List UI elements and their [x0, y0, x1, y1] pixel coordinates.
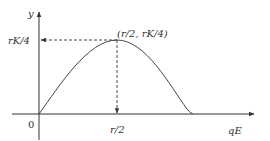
y-axis-label: y	[27, 8, 34, 19]
chart-canvas: y rK/4 (r/2, rK/4) 0 r/2 qE	[0, 0, 270, 141]
origin-label: 0	[28, 119, 34, 130]
x-axis-label: qE	[228, 125, 242, 136]
y-tick-label: rK/4	[8, 35, 30, 46]
x-tick-label: r/2	[110, 124, 125, 135]
peak-annotation: (r/2, rK/4)	[117, 28, 168, 39]
yield-curve	[39, 40, 193, 114]
